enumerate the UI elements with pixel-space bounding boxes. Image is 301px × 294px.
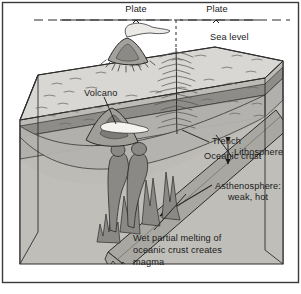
label-plate-left: Plate	[100, 4, 172, 15]
label-plate-right: Plate	[190, 4, 244, 15]
label-asthenosphere-line1: Asthenosphere:	[200, 181, 296, 192]
label-lithosphere: Lithosphere	[234, 147, 283, 158]
plate-motion-indicator	[34, 20, 290, 50]
label-trench: Trench	[212, 136, 241, 147]
label-melting-line3: magma	[133, 257, 164, 268]
label-melting-line1: Wet partial melting of	[133, 233, 221, 244]
label-asthenosphere-line2: weak, hot	[200, 192, 296, 203]
label-volcano: Volcano	[84, 88, 117, 99]
magma-chamber-right	[132, 143, 147, 156]
eruption-plume	[125, 23, 170, 37]
label-sea-level: Sea level	[210, 32, 249, 43]
label-melting-line2: oceanic crust creates	[133, 245, 222, 256]
diagram-canvas: Plate Plate Sea level Volcano Trench Oce…	[0, 0, 301, 294]
